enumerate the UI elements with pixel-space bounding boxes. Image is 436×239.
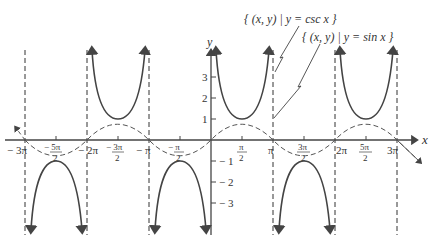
tick-minus-3pi: − 3π	[7, 144, 27, 156]
y-axis-label: y	[206, 35, 213, 49]
svg-text:2: 2	[239, 153, 244, 163]
tick-2pi: 2π	[336, 144, 348, 156]
csc-sin-graph: x y − 3π − 5π 2 − 2π − 3π 2 − π − π 2 π …	[0, 0, 436, 239]
tick-3pi-2: 3π	[298, 142, 308, 152]
tick-minus-pi: − π	[136, 144, 151, 156]
svg-text:2: 2	[363, 153, 368, 163]
tick-pi-2: π	[239, 142, 244, 152]
csc-legend-label: { (x, y) | y = csc x }	[244, 12, 337, 26]
x-tick-labels: − 3π − 5π 2 − 2π − 3π 2 − π − π 2 π 2 π …	[7, 142, 399, 163]
tick-y-minus-3: − 3	[219, 197, 234, 209]
tick-minus-pi-2: − π	[168, 142, 180, 152]
tick-minus-3pi-2: − 3π	[106, 142, 123, 152]
tick-y-minus-2: − 2	[219, 176, 233, 188]
tick-y-3: 3	[202, 71, 208, 83]
sin-leader-line	[274, 44, 320, 118]
tick-pi: π	[268, 144, 274, 156]
sin-legend-label: { (x, y) | y = sin x }	[302, 30, 393, 44]
tick-3pi: 3π	[387, 144, 399, 156]
svg-text:2: 2	[115, 153, 120, 163]
tick-y-1: 1	[202, 113, 208, 125]
tick-minus-5pi-2: − 5π	[44, 142, 61, 152]
tick-minus-2pi: − 2π	[78, 144, 98, 156]
tick-y-minus-1: − 1	[219, 155, 233, 167]
csc-leader-line	[275, 26, 299, 72]
x-axis-label: x	[421, 132, 428, 147]
tick-y-2: 2	[202, 92, 208, 104]
tick-5pi-2: 5π	[360, 142, 370, 152]
